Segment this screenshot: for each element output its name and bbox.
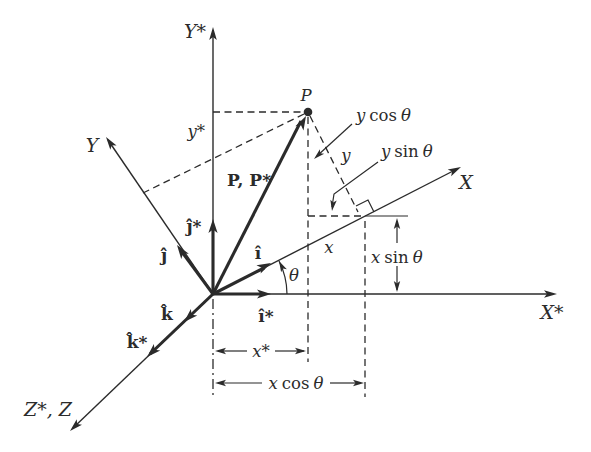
i-star-label: î* <box>258 306 273 326</box>
y-cos-theta-label: ycosθ <box>355 106 411 125</box>
k-star-vector-line <box>150 294 213 354</box>
theta-label: θ <box>289 266 299 285</box>
position-vector-label: P, P* <box>227 170 271 190</box>
y-axis-arrowhead-icon <box>103 135 117 150</box>
x-star-axis-label: X* <box>538 301 564 323</box>
i-hat-label: î <box>255 243 262 263</box>
x-coord-label: x <box>324 238 334 257</box>
ysin-leader-line <box>332 162 378 207</box>
position-vector-line <box>213 121 301 294</box>
point-p-label: P <box>299 86 312 105</box>
y-coord-label: y <box>340 146 351 165</box>
k-star-label: k̂* <box>126 332 148 352</box>
coordinate-diagram: Y* X* X Y Z*, Z y* P x y θ x* ycosθ ysin… <box>0 0 591 452</box>
right-angle-marker <box>356 200 374 212</box>
y-star-dim-label: y* <box>186 122 205 141</box>
j-vector-line <box>182 252 213 294</box>
x-sin-theta-label: xsinθ <box>371 248 423 267</box>
y-star-axis-label: Y* <box>184 20 207 42</box>
j-hat-label: ĵ <box>159 245 167 265</box>
x-cos-theta-label: xcosθ <box>269 374 324 393</box>
figure-canvas: Y* X* X Y Z*, Z y* P x y θ x* ycosθ ysin… <box>0 0 591 452</box>
y-sin-theta-label: ysinθ <box>380 142 433 161</box>
y-axis-label: Y <box>86 134 101 156</box>
x-star-dim-label: x* <box>252 342 270 361</box>
x-axis-label: X <box>457 171 474 193</box>
j-star-label: ĵ* <box>184 216 201 236</box>
k-hat-label: k̂ <box>160 304 174 324</box>
p-to-yaxis-perpendicular-dashed-line <box>143 114 304 193</box>
z-axis-label: Z*, Z <box>23 398 73 420</box>
point-p-dot <box>304 108 313 117</box>
